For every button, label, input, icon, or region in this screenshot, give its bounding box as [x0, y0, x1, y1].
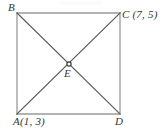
intersection-point-e [67, 62, 71, 66]
vertex-label-d: D [115, 116, 123, 127]
vertex-label-a: A(1, 3) [13, 116, 45, 127]
square-diagonals-svg [0, 0, 161, 134]
vertex-label-c: C (7, 5) [122, 9, 158, 20]
vertex-label-e: E [64, 68, 71, 79]
geometry-figure: B C (7, 5) A(1, 3) D E [0, 0, 161, 134]
vertex-label-b: B [8, 2, 15, 13]
